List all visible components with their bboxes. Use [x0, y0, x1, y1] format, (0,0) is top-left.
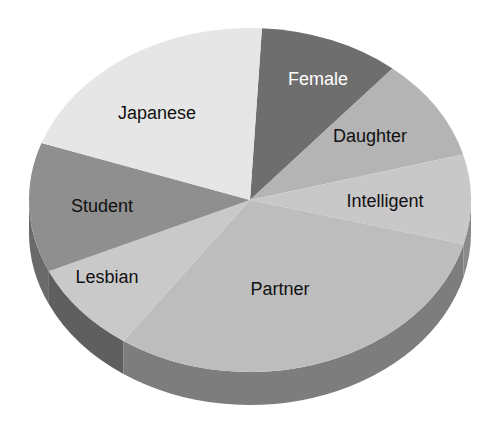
label-japanese: Japanese: [118, 103, 196, 123]
label-student: Student: [71, 196, 133, 216]
label-lesbian: Lesbian: [75, 267, 138, 287]
pie-chart: FemaleDaughterIntelligentPartnerLesbianS…: [0, 0, 495, 433]
label-partner: Partner: [250, 279, 309, 299]
label-intelligent: Intelligent: [346, 191, 423, 211]
label-female: Female: [288, 69, 348, 89]
label-daughter: Daughter: [333, 126, 407, 146]
